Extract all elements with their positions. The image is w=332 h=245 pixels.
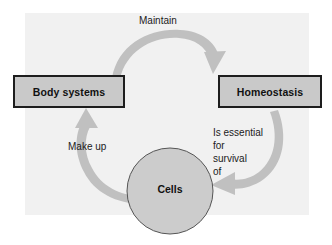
node-body-systems-label: Body systems (33, 86, 105, 98)
node-homeostasis-label: Homeostasis (237, 86, 303, 98)
node-body-systems: Body systems (13, 75, 125, 108)
edge-label-line-2: for (213, 139, 263, 152)
node-cells-label: Cells (127, 183, 213, 195)
diagram-canvas: Body systems Homeostasis Cells Maintain … (0, 0, 332, 245)
edge-label-make-up: Make up (68, 141, 106, 154)
edge-label-line-3: survival (213, 152, 263, 165)
diagram-vector-layer (0, 0, 332, 245)
node-homeostasis: Homeostasis (218, 75, 322, 108)
edge-label-line-1: Is essential (213, 126, 263, 139)
arrow-body-systems-to-homeostasis (112, 30, 226, 79)
edge-label-line-4: of (213, 165, 263, 178)
edge-label-maintain: Maintain (139, 15, 177, 28)
edge-label-is-essential-for-survival-of: Is essential for survival of (213, 126, 263, 178)
